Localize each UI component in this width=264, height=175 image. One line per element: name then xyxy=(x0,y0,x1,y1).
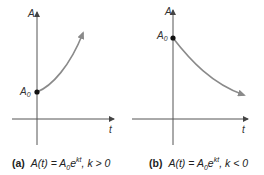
chart-b-caption-tag: (b) xyxy=(149,157,162,169)
chart-a-initial-point xyxy=(34,89,39,94)
chart-b-y-label: A xyxy=(164,6,172,17)
figure-canvas: A t A0 A t A0 xyxy=(0,0,264,175)
chart-b-x-label: t xyxy=(242,124,246,135)
chart-a-growth-curve xyxy=(37,33,83,92)
chart-b-initial-point xyxy=(170,35,175,40)
chart-a-x-label: t xyxy=(109,124,113,135)
chart-b-caption: (b)A(t) = A0ekt, k < 0 xyxy=(149,156,248,171)
chart-a-caption-lhs: A(t) = A xyxy=(31,157,67,169)
chart-a-y-label: A xyxy=(27,8,35,19)
chart-b-point-label: A0 xyxy=(156,30,168,42)
chart-a: A t A0 xyxy=(12,8,114,145)
chart-b-caption-lhs: A(t) = A xyxy=(168,157,204,169)
chart-a-caption-cond: , k > 0 xyxy=(82,157,111,169)
chart-a-caption: (a)A(t) = A0ekt, k > 0 xyxy=(12,156,110,171)
chart-b-caption-cond: , k < 0 xyxy=(219,157,248,169)
chart-b-decay-curve xyxy=(173,38,244,95)
chart-a-point-label: A0 xyxy=(19,86,31,98)
chart-b: A t A0 xyxy=(132,6,248,145)
chart-a-caption-tag: (a) xyxy=(12,157,25,169)
